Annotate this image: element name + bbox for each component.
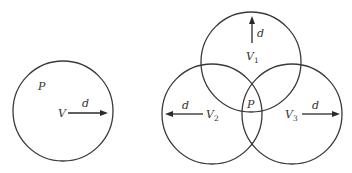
range-label-d: d <box>82 97 89 110</box>
arrowhead-icon <box>332 111 340 117</box>
diagram-canvas: P V d d V 1 d V 2 d V <box>0 0 352 173</box>
vehicle-subscript-3: 3 <box>293 114 298 123</box>
arrowhead-icon <box>100 110 108 116</box>
point-label-p: P <box>37 80 46 93</box>
vehicle-subscript-2: 2 <box>214 114 219 123</box>
trilateration-panel: d V 1 d V 2 d V 3 P <box>162 12 342 164</box>
arrowhead-icon <box>249 16 255 24</box>
vehicle-subscript-1: 1 <box>254 56 259 65</box>
range-label-d1: d <box>257 27 264 40</box>
intersection-label-p: P <box>246 98 255 111</box>
range-label-d3: d <box>312 99 319 112</box>
single-range-panel: P V d <box>13 61 113 161</box>
arrowhead-icon <box>165 111 173 117</box>
range-label-d2: d <box>182 99 189 112</box>
vehicle-label-v: V <box>58 107 67 120</box>
